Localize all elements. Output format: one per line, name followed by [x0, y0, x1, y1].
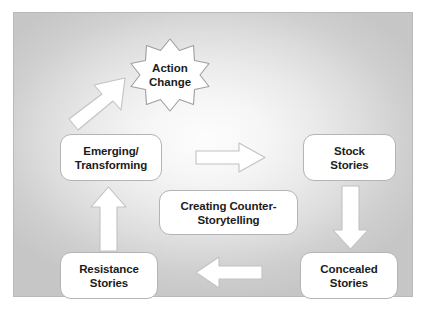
- node-concealed-stories[interactable]: Concealed Stories: [300, 252, 398, 299]
- arrow-up-icon: [90, 185, 128, 253]
- node-stock-line2: Stories: [330, 159, 368, 171]
- node-center-line1: Creating Counter-: [180, 200, 276, 212]
- arrow-left-icon: [195, 256, 263, 290]
- node-resistance-stories[interactable]: Resistance Stories: [60, 252, 158, 299]
- node-action-change[interactable]: Action Change: [126, 38, 214, 112]
- node-stock-stories[interactable]: Stock Stories: [303, 134, 396, 181]
- node-concealed-line2: Stories: [330, 277, 368, 289]
- arrow-down-icon: [332, 185, 370, 251]
- arrow-right-icon: [195, 142, 267, 174]
- node-resistance-line1: Resistance: [79, 263, 139, 275]
- star-burst-icon: [126, 38, 214, 112]
- node-resistance-line2: Stories: [90, 277, 128, 289]
- node-center-line2: Storytelling: [197, 214, 259, 226]
- node-stock-line1: Stock: [334, 145, 365, 157]
- node-emerging-transforming[interactable]: Emerging/ Transforming: [60, 134, 162, 181]
- node-creating-counter-storytelling[interactable]: Creating Counter- Storytelling: [159, 190, 298, 235]
- node-emerging-line2: Transforming: [75, 159, 147, 171]
- node-concealed-line1: Concealed: [320, 263, 377, 275]
- diagram-canvas: Action Change Emerging/ Transforming Sto…: [0, 0, 430, 316]
- diagram-panel: Action Change Emerging/ Transforming Sto…: [13, 12, 413, 297]
- node-emerging-line1: Emerging/: [83, 145, 138, 157]
